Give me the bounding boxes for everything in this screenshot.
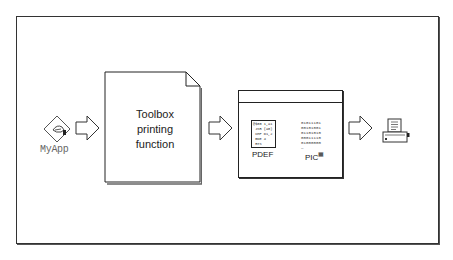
pdef-label: PDEF [252,150,273,159]
arrow-icon [208,115,234,141]
myapp-label: MyApp [40,144,69,155]
printer-icon [381,118,411,146]
toolbox-label: Toolbox printing function [105,107,205,152]
arrow-icon [348,115,374,141]
pic-label-text: PIC [305,153,318,162]
pic-bits-icon: 01011101 00101001 01101010 00011110 0100… [301,121,321,151]
printer-resource-window: @$00 1,a1 JSR (a0) CMP D1,2 BNE 4 RTS PD… [238,90,343,178]
window-title-bar [239,91,342,103]
application-icon [42,114,72,144]
pic-label: PIC▦ [305,150,324,162]
pic-mark-icon: ▦ [318,151,324,157]
arrow-icon [75,115,101,141]
pdef-code-icon: @$00 1,a1 JSR (a0) CMP D1,2 BNE 4 RTS [251,120,276,148]
